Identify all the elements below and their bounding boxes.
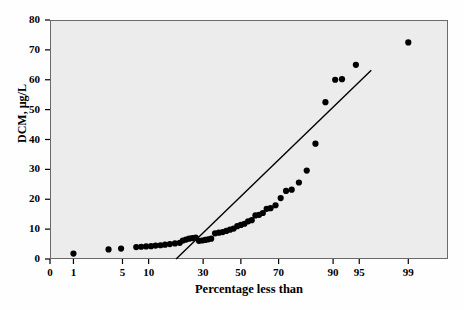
x-tick-label: 30 [191, 266, 215, 278]
data-point [339, 76, 345, 82]
data-point [105, 246, 111, 252]
data-point [304, 167, 310, 173]
x-tick-label: 99 [396, 266, 420, 278]
x-tick-label: 10 [137, 266, 161, 278]
data-point [353, 62, 359, 68]
data-point [312, 141, 318, 147]
data-point [283, 188, 289, 194]
x-tick-label: 1 [61, 266, 85, 278]
x-tick-label: 95 [347, 266, 371, 278]
x-axis-title: Percentage less than [50, 282, 448, 297]
y-tick-label: 20 [14, 192, 40, 204]
x-tick-label: 0 [38, 266, 62, 278]
y-axis-title: DCM, µg/L [15, 54, 30, 174]
scatter-points [70, 39, 411, 256]
data-point [272, 202, 278, 208]
y-tick-label: 0 [14, 252, 40, 264]
data-point [70, 251, 76, 257]
x-tick-label: 5 [110, 266, 134, 278]
x-axis-ticks [50, 259, 408, 264]
chart-container: 01020304050607080 01510305070909599 DCM,… [0, 0, 464, 310]
x-tick-label: 50 [229, 266, 253, 278]
x-tick-label: 70 [267, 266, 291, 278]
data-point [289, 187, 295, 193]
y-axis-ticks [45, 20, 50, 259]
data-point [405, 39, 411, 45]
data-point [296, 179, 302, 185]
data-point [322, 99, 328, 105]
y-tick-label: 10 [14, 222, 40, 234]
data-point [118, 245, 124, 251]
y-tick-label: 80 [14, 13, 40, 25]
x-tick-label: 90 [321, 266, 345, 278]
data-point [278, 195, 284, 201]
trend-line [176, 70, 371, 259]
chart-svg [0, 0, 464, 310]
data-point [208, 236, 214, 242]
data-point [332, 77, 338, 83]
